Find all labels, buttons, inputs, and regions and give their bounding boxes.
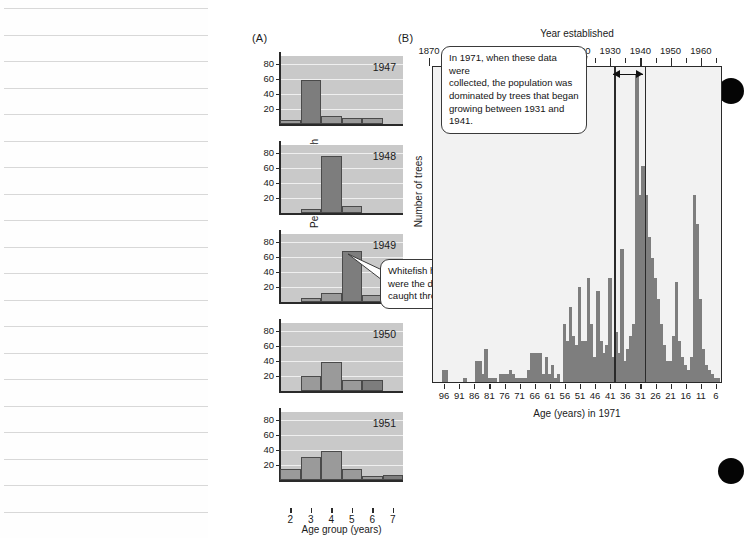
notebook-rule — [4, 459, 208, 460]
notebook-rule — [4, 379, 208, 380]
notebook-rule — [4, 35, 208, 36]
notebook-rule — [4, 432, 208, 433]
notebook-rule — [4, 353, 208, 354]
notebook-rule — [4, 273, 208, 274]
notebook-rule — [4, 167, 208, 168]
panel-b-callout-text: In 1971, when these data werecollected, … — [449, 52, 579, 126]
notebook-rule — [4, 114, 208, 115]
notebook-rule — [4, 512, 208, 513]
notebook-paper — [0, 0, 208, 538]
notebook-rule — [4, 326, 208, 327]
notebook-rule — [4, 300, 208, 301]
notebook-rule — [4, 8, 208, 9]
notebook-rule — [4, 194, 208, 195]
notebook-rule — [4, 88, 208, 89]
notebook-rule — [4, 61, 208, 62]
notebook-rule — [4, 141, 208, 142]
notebook-rule — [4, 485, 208, 486]
figure: (A) Percentage of catch 2040608019472040… — [208, 0, 736, 538]
panel-b-callout: In 1971, when these data werecollected, … — [441, 46, 587, 134]
notebook-rule — [4, 406, 208, 407]
notebook-rule — [4, 220, 208, 221]
notebook-rule — [4, 247, 208, 248]
